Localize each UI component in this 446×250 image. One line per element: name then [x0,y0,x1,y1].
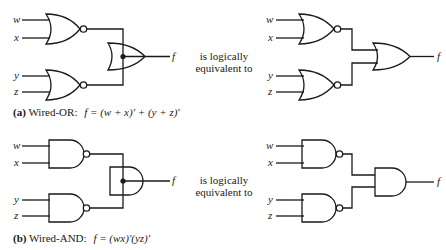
caption-formula: f = (w + x)' + (y + z)' [84,106,180,118]
nor-gate-icon [299,14,334,44]
a-right-circuit [276,14,434,100]
input-label-w: w [266,14,273,25]
nand-gate-icon [49,140,84,168]
caption-b: (b) Wired-AND: f = (wx)'(yz)' [13,232,150,244]
input-label-x: x [268,32,273,43]
caption-formula: f = (wx)'(yz)' [93,232,150,244]
and-gate-icon [375,168,406,196]
input-label-w: w [13,140,20,151]
b-left-circuit [22,140,170,222]
nor-gate-icon [46,70,80,100]
output-label-f: f [437,176,440,187]
nand-gate-icon [302,194,336,222]
caption-tag: (a) [13,106,26,118]
caption-title: Wired-AND: [29,232,87,244]
equivalence-line-2: equivalent to [184,62,264,74]
nor-gate-icon [299,70,334,100]
input-label-z: z [268,86,272,97]
equivalence-text-b: is logically equivalent to [184,174,264,198]
caption-a: (a) Wired-OR: f = (w + x)' + (y + z)' [13,106,180,118]
input-label-z: z [14,210,18,221]
logic-diagram [0,0,446,250]
output-label-f: f [437,51,440,62]
input-label-y: y [268,194,273,205]
input-label-x: x [14,157,19,168]
input-label-z: z [268,210,272,221]
input-label-w: w [266,140,273,151]
b-right-circuit [276,140,434,222]
equivalence-line-1: is logically [184,50,264,62]
input-label-y: y [14,194,19,205]
equivalence-line-1: is logically [184,174,264,186]
caption-title: Wired-OR: [28,106,77,118]
input-label-y: y [14,70,19,81]
nand-gate-icon [302,140,336,168]
input-label-x: x [268,157,273,168]
input-label-w: w [13,14,20,25]
a-left-circuit [22,14,170,100]
nand-gate-icon [49,194,84,222]
equivalence-line-2: equivalent to [184,186,264,198]
input-label-y: y [268,70,273,81]
input-label-x: x [14,32,19,43]
caption-tag: (b) [13,232,26,244]
equivalence-text-a: is logically equivalent to [184,50,264,74]
output-label-f: f [172,175,175,186]
input-label-z: z [14,86,18,97]
output-label-f: f [172,51,175,62]
or-gate-icon [373,43,410,70]
nor-gate-icon [46,14,80,44]
